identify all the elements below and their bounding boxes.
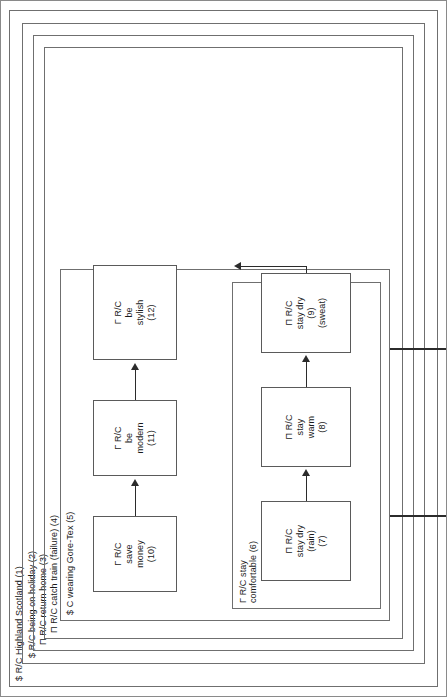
edge-9-riser	[306, 266, 307, 273]
arrowhead-10-to-11	[131, 479, 139, 486]
arrowhead-9-to-gore-tex-frame	[234, 262, 241, 270]
node-label-stay-dry-sweat: Π R/C stay dry (9) (sweat)	[284, 297, 328, 329]
node-stay-warm[interactable]: Π R/C stay warm (8)	[261, 387, 351, 467]
node-label-stay-warm: Π R/C stay warm (8)	[284, 408, 328, 447]
node-be-modern[interactable]: Γ R/C be modern (11)	[93, 400, 177, 476]
node-label-be-modern: Γ R/C be modern (11)	[113, 422, 157, 453]
edge-11-to-12	[135, 368, 136, 400]
arrowhead-7-to-8	[302, 469, 310, 476]
edge-7-to-8	[306, 474, 307, 501]
node-stay-dry-sweat[interactable]: Π R/C stay dry (9) (sweat)	[261, 273, 351, 353]
frame-label-wearing-gore-tex: $ C wearing Gore-Tex (5)	[65, 512, 75, 615]
node-label-stay-dry-rain: Π R/C stay dry (rain) (7)	[284, 525, 328, 557]
node-save-money[interactable]: Γ R/C save money (10)	[93, 516, 177, 592]
node-label-save-money: Γ R/C save money (10)	[113, 540, 157, 568]
connector-gore-tex-to-buy-gore-tex	[390, 348, 447, 350]
node-be-stylish[interactable]: Γ R/C be stylish (12)	[93, 265, 177, 360]
frame-label-catch-train-failure: Π R/C catch train (failure) (4)	[49, 515, 59, 633]
node-label-be-stylish: Γ R/C be stylish (12)	[113, 300, 157, 326]
node-stay-dry-rain[interactable]: Π R/C stay dry (rain) (7)	[261, 501, 351, 581]
arrowhead-11-to-12	[131, 363, 139, 370]
diagram-canvas: $ R/C Highland Scotland (1) $ R/C being …	[0, 0, 447, 697]
edge-10-to-11	[135, 484, 136, 516]
frame-label-stay-comfortable: Γ R/C stay comfortable (6)	[238, 541, 258, 603]
arrowhead-8-to-9	[302, 355, 310, 362]
edge-8-to-9	[306, 360, 307, 387]
connector-gore-tex-to-buy-ticket	[390, 515, 447, 517]
edge-9-to-gore-tex-frame	[240, 266, 306, 267]
